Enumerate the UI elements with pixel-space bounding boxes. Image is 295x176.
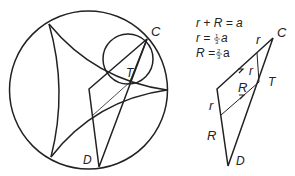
left-figure xyxy=(10,11,168,169)
arc-bottom xyxy=(51,90,167,157)
equation-2-lhs: r = xyxy=(196,31,210,45)
label-d-right: D xyxy=(236,154,245,168)
right-labels: C T D r r R r R xyxy=(207,25,287,168)
arc-left xyxy=(49,24,59,157)
eq2-var: a xyxy=(221,31,228,45)
equation-3-lhs: R = xyxy=(196,46,215,60)
label-c: C xyxy=(151,24,161,39)
label-R-inner: R xyxy=(238,80,247,95)
label-r-left: r xyxy=(209,98,214,113)
label-R-left: R xyxy=(207,128,216,143)
arc-top xyxy=(49,24,167,90)
label-r-top: r xyxy=(256,32,261,47)
label-c-right: C xyxy=(277,25,287,40)
label-d: D xyxy=(83,153,92,167)
arrow-icon xyxy=(238,69,243,73)
label-t-right: T xyxy=(268,75,277,89)
eq3-denominator: 3 xyxy=(217,54,221,60)
eq3-var: a xyxy=(223,46,230,60)
diagram-canvas: C T D C T D r r R r R r + R = a r = 1 3 … xyxy=(0,0,295,176)
eq2-denominator: 3 xyxy=(215,39,219,45)
equation-1: r + R = a xyxy=(196,16,243,30)
segment-r xyxy=(257,53,259,82)
label-r-inner: r xyxy=(249,64,254,78)
equations: r + R = a r = 1 3 a R = 2 3 a xyxy=(196,16,243,60)
